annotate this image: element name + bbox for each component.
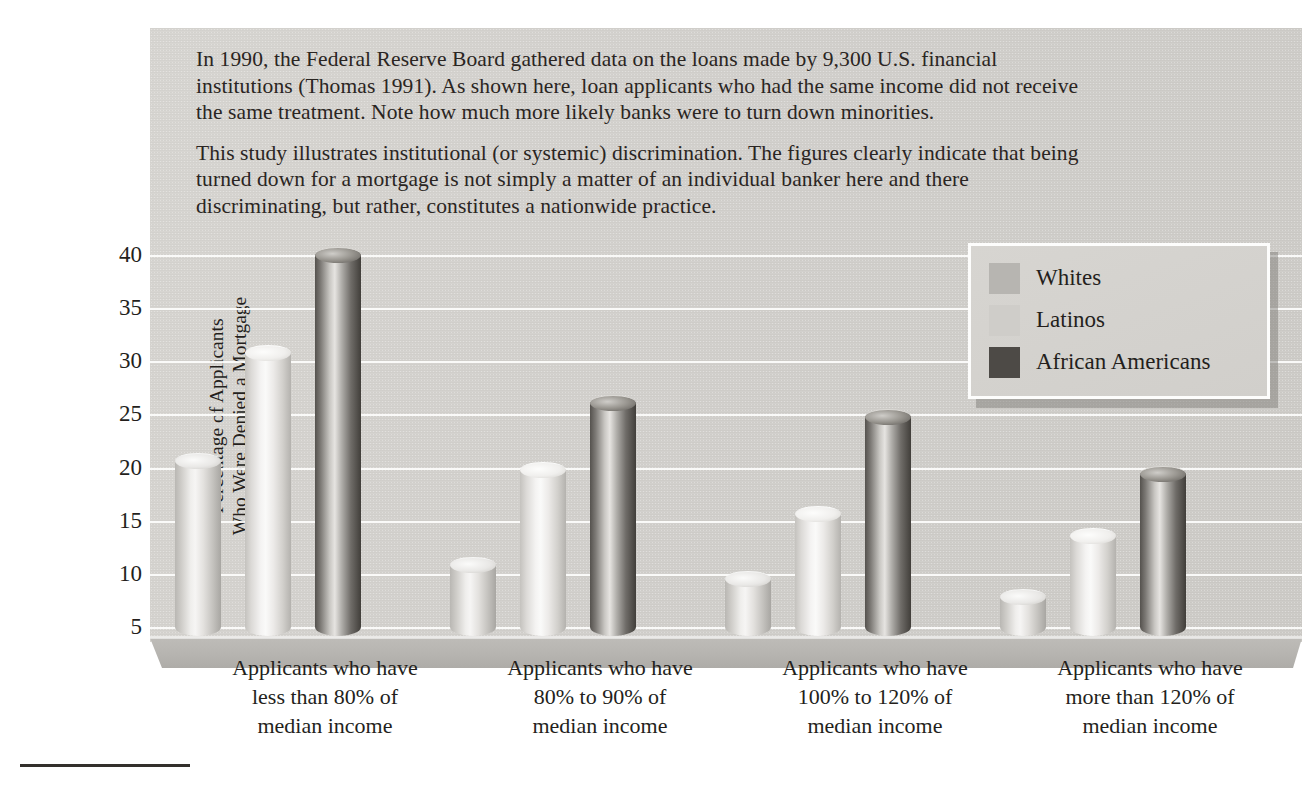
y-axis-tick-label: 30 — [82, 349, 142, 372]
bar — [590, 402, 636, 636]
bar-cap — [315, 247, 361, 263]
bar — [450, 564, 496, 636]
x-axis-category-label: Applicants who have 100% to 120% of medi… — [740, 653, 1010, 740]
legend-row: Whites — [989, 260, 1101, 296]
legend-label: Latinos — [1036, 308, 1105, 332]
bar-body — [795, 513, 841, 636]
bar-cap — [245, 345, 291, 361]
y-axis-tick-label: 40 — [82, 243, 142, 266]
y-axis-tick-label: 20 — [82, 456, 142, 479]
bar-cap — [590, 395, 636, 411]
legend-swatch — [989, 263, 1020, 294]
caption-block: In 1990, the Federal Reserve Board gathe… — [196, 46, 1096, 219]
bar — [1000, 596, 1046, 636]
footnote-rule — [20, 764, 190, 767]
y-axis-tick-label: 15 — [82, 509, 142, 532]
x-axis-category-label: Applicants who have 80% to 90% of median… — [465, 653, 735, 740]
bar-cap — [1070, 528, 1116, 544]
y-axis-tick-label: 5 — [82, 615, 142, 638]
chart-legend: WhitesLatinosAfrican Americans — [968, 243, 1270, 399]
bar-body — [520, 469, 566, 636]
bar — [245, 352, 291, 636]
bar — [725, 578, 771, 636]
bar-body — [590, 402, 636, 636]
legend-swatch — [989, 305, 1020, 336]
x-axis-category-label: Applicants who have less than 80% of med… — [190, 653, 460, 740]
bar — [1070, 535, 1116, 636]
legend-label: Whites — [1036, 266, 1101, 290]
bar-body — [1140, 473, 1186, 636]
figure-panel: In 1990, the Federal Reserve Board gathe… — [0, 0, 1315, 785]
bar-body — [450, 564, 496, 636]
bar-group — [175, 243, 405, 643]
caption-paragraph-2: This study illustrates institutional (or… — [196, 140, 1096, 220]
y-axis-tick-label: 10 — [82, 562, 142, 585]
bar — [520, 469, 566, 636]
legend-swatch — [989, 347, 1020, 378]
legend-row: Latinos — [989, 302, 1105, 338]
bar — [865, 416, 911, 636]
bar-body — [315, 254, 361, 636]
bar-cap — [1140, 466, 1186, 482]
bar-body — [175, 460, 221, 636]
y-axis-tick-label: 35 — [82, 296, 142, 319]
bar — [175, 460, 221, 636]
bar-body — [1070, 535, 1116, 636]
caption-paragraph-1: In 1990, the Federal Reserve Board gathe… — [196, 46, 1096, 126]
y-axis-tick-label: 25 — [82, 402, 142, 425]
legend-label: African Americans — [1036, 350, 1210, 374]
x-axis-category-label: Applicants who have more than 120% of me… — [1015, 653, 1285, 740]
bar — [315, 254, 361, 636]
legend-row: African Americans — [989, 344, 1210, 380]
bar-body — [245, 352, 291, 636]
bar-body — [865, 416, 911, 636]
bar — [795, 513, 841, 636]
bar-cap — [865, 409, 911, 425]
bar-cap — [520, 462, 566, 478]
bar — [1140, 473, 1186, 636]
bar-group — [450, 243, 680, 643]
bar-group — [725, 243, 955, 643]
